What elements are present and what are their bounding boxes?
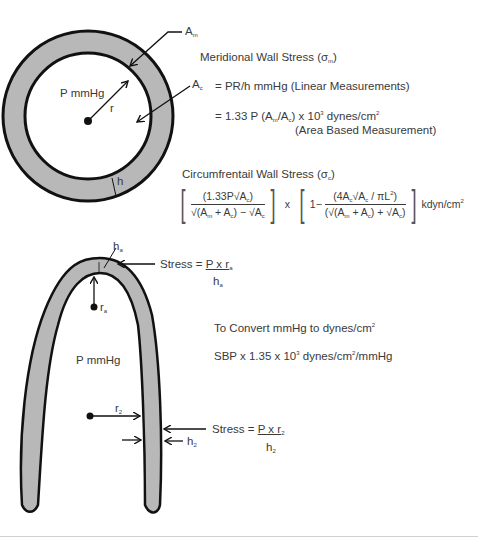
label-mid-thickness: h2	[187, 436, 197, 448]
circumferential-formula: [ (1.33P√Ac) √(Am + Ac) − √Ac ] x [ 1− (…	[178, 186, 464, 222]
long-axis-u-shape	[21, 248, 206, 513]
label-radius: r	[110, 103, 114, 115]
ventricle-wall	[21, 258, 161, 513]
label-thickness: h	[117, 176, 123, 188]
label-ac: Ac	[192, 79, 203, 91]
mid-stress-denominator: h2	[266, 442, 276, 454]
label-apex-thickness: ha	[113, 241, 123, 253]
apex-stress-formula: Stress = P x ra	[160, 259, 232, 271]
conversion-title: To Convert mmHg to dynes/cm2	[214, 322, 375, 335]
label-pressure-circle: P mmHg	[60, 88, 105, 100]
meridional-linear: = PR/h mmHg (Linear Measurements)	[215, 81, 410, 93]
short-axis-ring	[3, 31, 190, 201]
wall-stress-diagram: Am Ac P mmHg r h Meridional Wall Stress …	[0, 0, 478, 540]
label-am: Am	[185, 26, 198, 38]
meridional-area: = 1.33 P (Am/Ac) x 103 dynes/cm2	[215, 110, 379, 123]
meridional-area-note: (Area Based Measurement)	[295, 125, 436, 137]
label-pressure-long-axis: P mmHg	[76, 355, 121, 367]
label-mid-radius: r2	[115, 403, 122, 415]
meridional-title: Meridional Wall Stress (σm)	[200, 52, 337, 64]
fraction-1: (1.33P√Ac) √(Am + Ac) − √Ac	[191, 190, 265, 219]
bottom-divider	[0, 536, 478, 537]
fraction-2: (4Ac√Ac / πL2) (√(Am + Ac) + √Ac)	[325, 190, 406, 219]
label-apex-radius: ra	[100, 302, 107, 314]
mid-stress-formula: Stress = P x r2	[212, 424, 284, 436]
apex-stress-denominator: ha	[213, 276, 223, 288]
conversion-formula: SBP x 1.35 x 103 dynes/cm2/mmHg	[214, 350, 392, 363]
circumferential-title: Circumfrentail Wall Stress (σc)	[182, 169, 335, 181]
